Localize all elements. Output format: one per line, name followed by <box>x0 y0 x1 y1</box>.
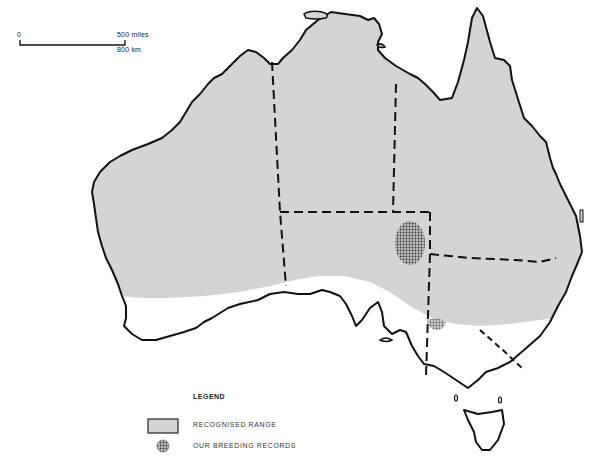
scale-bar <box>20 40 125 45</box>
scale-km-label: 800 km <box>117 46 141 53</box>
australia-map <box>0 0 596 466</box>
groote-eylandt <box>377 44 385 48</box>
scale-miles-label: 500 miles <box>117 31 149 38</box>
legend-label-range: RECOGNISED RANGE <box>193 421 277 428</box>
tasmania <box>464 410 504 450</box>
legend-swatch-breeding <box>157 440 169 452</box>
melville-island <box>304 11 327 19</box>
king-island <box>455 395 458 401</box>
legend-swatch-range <box>148 419 178 433</box>
fraser-island <box>580 210 583 222</box>
legend-label-breeding: OUR BREEDING RECORDS <box>193 442 296 449</box>
flinders-island <box>499 397 502 403</box>
kangaroo-island <box>380 338 392 342</box>
scale-start-label: 0 <box>17 31 21 38</box>
legend-title: LEGEND <box>193 393 225 400</box>
breeding-record-area-central <box>395 221 425 265</box>
